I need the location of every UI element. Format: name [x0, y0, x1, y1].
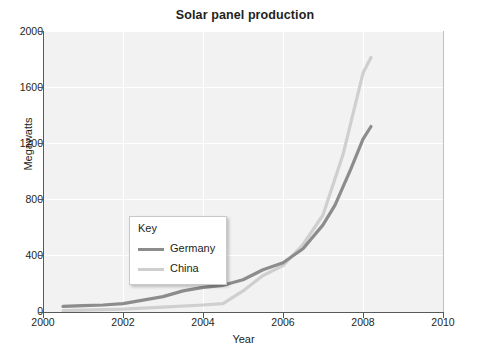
legend-label-china: China	[170, 262, 199, 274]
x-tickmark-2006	[283, 313, 284, 318]
x-tickmark-2002	[123, 313, 124, 318]
y-tickmark-800	[38, 199, 43, 200]
legend-label-germany: Germany	[170, 242, 215, 254]
chart-title: Solar panel production	[0, 8, 490, 22]
chart-legend: Key Germany China	[129, 216, 227, 285]
plot-area: Key Germany China	[43, 31, 444, 312]
y-axis-label: Megawatts	[22, 64, 34, 224]
x-axis-label: Year	[43, 333, 444, 345]
y-tickmark-2000	[38, 31, 43, 32]
x-tickmark-2000	[43, 313, 44, 318]
x-tickmark-2004	[203, 313, 204, 318]
y-tick-400: 400	[3, 249, 43, 261]
legend-swatch-china	[138, 268, 164, 271]
y-tickmark-1600	[38, 87, 43, 88]
y-tick-2000: 2000	[3, 25, 43, 37]
legend-title: Key	[138, 222, 157, 234]
x-tickmark-2008	[363, 313, 364, 318]
x-axis-line	[43, 312, 444, 313]
chart-figure: Solar panel production Key Germany China	[0, 0, 490, 356]
y-tickmark-1200	[38, 143, 43, 144]
y-axis-line	[43, 31, 44, 313]
x-tickmark-2010	[443, 313, 444, 318]
legend-swatch-germany	[138, 248, 164, 251]
series-lines	[43, 31, 443, 312]
y-tickmark-400	[38, 255, 43, 256]
